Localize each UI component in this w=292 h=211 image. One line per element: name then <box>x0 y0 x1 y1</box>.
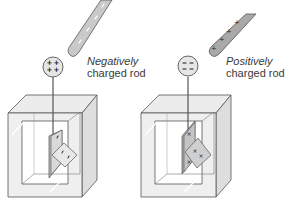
electroscope-diagram: + + + + × × × <box>0 0 292 211</box>
svg-text:×: × <box>186 130 191 137</box>
svg-text:×: × <box>198 152 203 159</box>
svg-text:×: × <box>192 147 197 154</box>
left-electroscope-knob: + + + + <box>43 57 63 77</box>
positively-charged-rod-label: Positively charged rod <box>226 55 285 79</box>
knob-charge: + <box>54 66 60 74</box>
svg-text:×: × <box>186 158 191 165</box>
label-line-2: charged rod <box>226 67 285 79</box>
positively-charged-rod: × × × × <box>209 14 256 56</box>
right-electroscope-knob <box>178 56 198 76</box>
label-line-1: Positively <box>226 55 285 67</box>
label-line-1: Negatively <box>87 55 146 67</box>
knob-charge: + <box>47 66 53 74</box>
right-panel: × × × × <box>141 14 256 197</box>
left-panel: + + + + <box>8 0 112 197</box>
negatively-charged-rod <box>68 0 112 56</box>
negatively-charged-rod-label: Negatively charged rod <box>87 55 146 79</box>
label-line-2: charged rod <box>87 67 146 79</box>
